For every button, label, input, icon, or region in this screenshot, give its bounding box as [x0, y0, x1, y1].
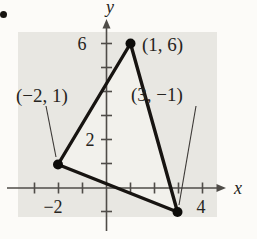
point-label-1-6: (1, 6): [142, 34, 183, 56]
point-label-3-neg1: (3, −1): [131, 84, 183, 106]
x-tick-label-4: 4: [197, 197, 206, 217]
y-axis-arrow-icon: [103, 19, 111, 29]
textbook-figure: y x 6 2 −2 4 (1, 6) (−2, 1) (3, −1): [0, 0, 257, 239]
point-label-neg2-1: (−2, 1): [16, 85, 68, 107]
vertex-dot-1-6: [126, 39, 136, 49]
x-axis-label: x: [233, 178, 242, 198]
y-tick-label-2: 2: [86, 130, 95, 150]
x-axis-arrow-icon: [217, 184, 227, 192]
y-tick-label-6: 6: [78, 34, 87, 54]
coordinate-plane-figure: y x 6 2 −2 4 (1, 6) (−2, 1) (3, −1): [0, 0, 257, 239]
vertex-dot-3-neg1: [173, 207, 183, 217]
y-axis-label: y: [104, 0, 114, 17]
x-tick-label-neg2: −2: [43, 197, 62, 217]
vertex-dot-neg2-1: [53, 160, 63, 170]
